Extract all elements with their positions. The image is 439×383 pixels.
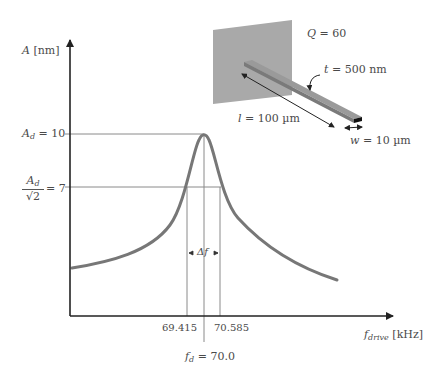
q-label: Q = 60 — [307, 27, 346, 40]
width-arrow — [345, 127, 362, 128]
guide-lines — [65, 134, 221, 342]
x-axis-label: fdrive [kHz] — [364, 328, 423, 342]
resonance-diagram: A [nm] Ad = 10 Ad √2 = 7 Δf 69.415 70.58… — [0, 0, 439, 383]
y-axis-label: A [nm] — [22, 44, 60, 57]
f-high-label: 70.585 — [214, 322, 249, 333]
half-power-value: = 7 — [46, 182, 66, 195]
ad-label: Ad = 10 — [22, 127, 65, 141]
delta-f-label: Δf — [197, 246, 208, 257]
half-power-fraction: Ad √2 — [22, 174, 44, 203]
thickness-label: t = 500 nm — [324, 63, 387, 76]
fd-label: fd = 70.0 — [185, 350, 235, 364]
f-low-label: 69.415 — [162, 322, 197, 333]
width-label: w = 10 µm — [350, 134, 411, 147]
thickness-pointer — [310, 75, 320, 90]
length-label: l = 100 µm — [238, 112, 300, 125]
